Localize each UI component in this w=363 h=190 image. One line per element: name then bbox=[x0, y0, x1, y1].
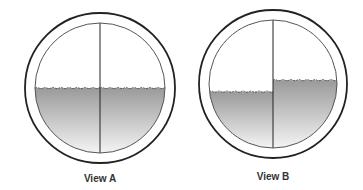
view-a-gauge bbox=[25, 13, 175, 163]
diagram: View A View B bbox=[0, 0, 363, 190]
view-a-caption: View A bbox=[84, 173, 116, 184]
view-b-caption: View B bbox=[257, 171, 290, 182]
liquid-right bbox=[100, 88, 165, 153]
view-b-gauge bbox=[199, 10, 347, 158]
liquid-right bbox=[273, 80, 337, 148]
liquid-left bbox=[35, 88, 100, 153]
